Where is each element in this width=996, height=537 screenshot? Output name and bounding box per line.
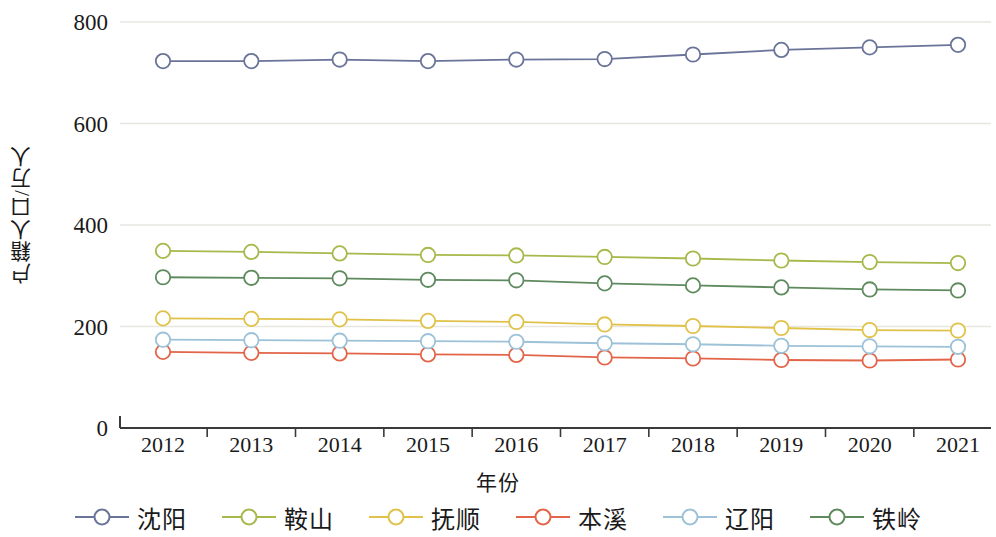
legend-marker-icon (368, 507, 424, 527)
series-抚顺 (156, 311, 965, 338)
legend-marker-icon (74, 507, 130, 527)
legend-label: 铁岭 (872, 500, 922, 535)
legend-marker-icon (515, 507, 571, 527)
legend-label: 抚顺 (431, 500, 481, 535)
series-铁岭 (156, 270, 965, 298)
x-tick-2013: 2013 (206, 432, 296, 458)
legend-item-本溪[interactable]: 本溪 (515, 500, 628, 535)
x-tick-2015: 2015 (383, 432, 473, 458)
legend-label: 辽阳 (725, 500, 775, 535)
x-tick-2020: 2020 (825, 432, 915, 458)
legend-item-沈阳[interactable]: 沈阳 (74, 500, 187, 535)
x-tick-2017: 2017 (560, 432, 650, 458)
x-tick-2012: 2012 (118, 432, 208, 458)
legend-item-辽阳[interactable]: 辽阳 (662, 500, 775, 535)
x-tick-2016: 2016 (471, 432, 561, 458)
line-chart: 户籍人口/万人 8006004002000 年份 沈阳鞍山抚顺本溪辽阳铁岭 20… (0, 0, 996, 537)
series-辽阳 (156, 332, 965, 354)
legend-item-鞍山[interactable]: 鞍山 (221, 500, 334, 535)
x-tick-2014: 2014 (295, 432, 385, 458)
plot-area (0, 0, 996, 470)
legend-marker-icon (662, 507, 718, 527)
chart-legend: 沈阳鞍山抚顺本溪辽阳铁岭 (0, 497, 996, 537)
x-tick-2021: 2021 (913, 432, 996, 458)
legend-marker-icon (809, 507, 865, 527)
legend-item-铁岭[interactable]: 铁岭 (809, 500, 922, 535)
legend-label: 本溪 (578, 500, 628, 535)
x-tick-2019: 2019 (736, 432, 826, 458)
series-沈阳 (156, 38, 965, 69)
series-本溪 (156, 345, 965, 368)
legend-label: 鞍山 (284, 500, 334, 535)
x-tick-2018: 2018 (648, 432, 738, 458)
legend-item-抚顺[interactable]: 抚顺 (368, 500, 481, 535)
x-axis-title: 年份 (0, 466, 996, 496)
legend-marker-icon (221, 507, 277, 527)
series-鞍山 (156, 244, 965, 271)
legend-label: 沈阳 (137, 500, 187, 535)
